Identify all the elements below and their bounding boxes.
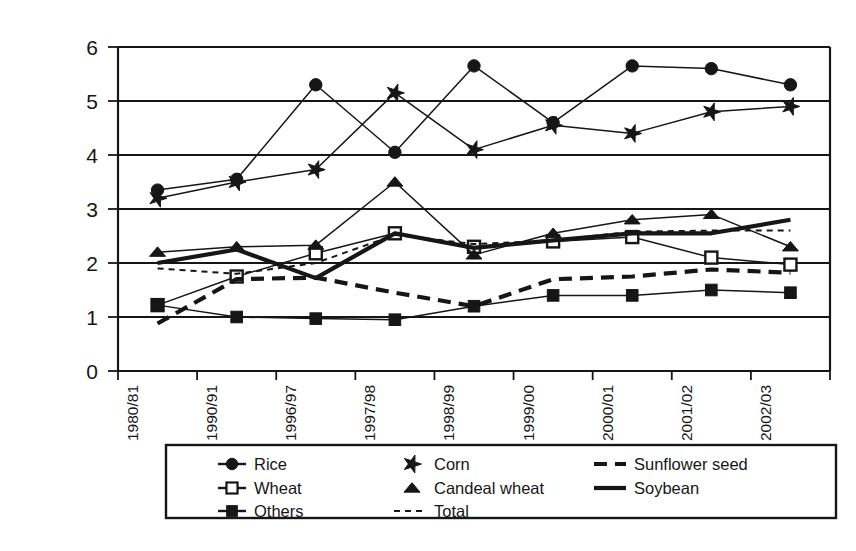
legend-item-sunflower-seed[interactable]: Sunflower seed bbox=[594, 455, 748, 473]
series-rice bbox=[151, 60, 796, 197]
series-wheat bbox=[152, 227, 797, 311]
filled-square-marker bbox=[706, 284, 718, 296]
star-marker bbox=[404, 455, 421, 473]
legend-label: Wheat bbox=[254, 479, 302, 497]
x-tick-label: 1998/99 bbox=[440, 385, 457, 441]
y-tick-label: 4 bbox=[86, 144, 98, 167]
filled-square-marker bbox=[547, 290, 559, 302]
y-tick-label: 1 bbox=[86, 306, 98, 329]
y-tick-label: 5 bbox=[86, 90, 98, 113]
chart-legend: RiceWheatOthersCornCandeal wheatTotalSun… bbox=[166, 445, 836, 520]
filled-square-marker bbox=[310, 313, 322, 325]
legend-item-corn[interactable]: Corn bbox=[404, 455, 469, 473]
x-axis-ticks: 1980/811990/911996/971997/981998/991999/… bbox=[118, 371, 830, 441]
x-tick-label: 1996/97 bbox=[282, 385, 299, 441]
legend-label: Others bbox=[254, 502, 304, 520]
x-tick-label: 1999/00 bbox=[520, 385, 537, 441]
legend-item-soybean[interactable]: Soybean bbox=[594, 479, 699, 497]
filled-circle-marker bbox=[468, 60, 480, 72]
chart-container: Yield (tn/ha) 0123456 1980/811990/911996… bbox=[0, 0, 856, 551]
legend-label: Soybean bbox=[634, 479, 699, 497]
y-tick-label: 3 bbox=[86, 198, 98, 221]
y-tick-label: 6 bbox=[86, 36, 98, 59]
filled-square-marker bbox=[626, 290, 638, 302]
legend-item-candeal-wheat[interactable]: Candeal wheat bbox=[404, 479, 544, 497]
y-tick-label: 2 bbox=[86, 252, 98, 275]
legend-label: Corn bbox=[434, 455, 470, 473]
series-line bbox=[158, 66, 791, 190]
filled-square-marker bbox=[227, 506, 238, 517]
filled-circle-marker bbox=[389, 146, 401, 158]
y-axis-ticks: 0123456 bbox=[86, 36, 118, 383]
open-square-marker bbox=[705, 252, 717, 264]
x-tick-label: 1990/91 bbox=[203, 385, 220, 441]
filled-triangle-marker bbox=[782, 241, 798, 250]
filled-circle-marker bbox=[310, 79, 322, 91]
chart-svg: 0123456 1980/811990/911996/971997/981998… bbox=[0, 0, 856, 551]
filled-triangle-marker bbox=[387, 177, 403, 186]
gridlines bbox=[118, 47, 830, 371]
filled-circle-marker bbox=[226, 458, 237, 469]
data-series-layer bbox=[150, 60, 800, 326]
star-marker bbox=[704, 103, 721, 121]
filled-square-marker bbox=[231, 311, 243, 323]
legend-label: Rice bbox=[254, 455, 287, 473]
x-tick-label: 2000/01 bbox=[599, 385, 616, 441]
open-square-marker bbox=[784, 259, 796, 271]
filled-circle-marker bbox=[626, 60, 638, 72]
legend-item-rice[interactable]: Rice bbox=[218, 455, 287, 473]
filled-triangle-marker bbox=[404, 483, 420, 492]
filled-triangle-marker bbox=[703, 209, 719, 218]
star-marker bbox=[387, 84, 404, 102]
filled-circle-marker bbox=[705, 62, 717, 74]
open-square-marker bbox=[226, 482, 237, 493]
filled-square-marker bbox=[152, 299, 164, 311]
series-corn bbox=[150, 84, 800, 207]
y-tick-label: 0 bbox=[86, 360, 98, 383]
legend-label: Total bbox=[434, 502, 469, 520]
x-tick-label: 1980/81 bbox=[124, 385, 141, 441]
series-others bbox=[152, 284, 796, 325]
x-tick-label: 2002/03 bbox=[757, 385, 774, 441]
legend-label: Sunflower seed bbox=[634, 455, 748, 473]
legend-item-wheat[interactable]: Wheat bbox=[218, 479, 302, 497]
filled-circle-marker bbox=[784, 79, 796, 91]
filled-square-marker bbox=[785, 287, 797, 299]
series-line bbox=[158, 269, 791, 323]
x-tick-label: 2001/02 bbox=[678, 385, 695, 441]
filled-square-marker bbox=[389, 314, 401, 326]
x-tick-label: 1997/98 bbox=[361, 385, 378, 441]
legend-label: Candeal wheat bbox=[434, 479, 544, 497]
series-sunflower-seed bbox=[158, 269, 791, 323]
